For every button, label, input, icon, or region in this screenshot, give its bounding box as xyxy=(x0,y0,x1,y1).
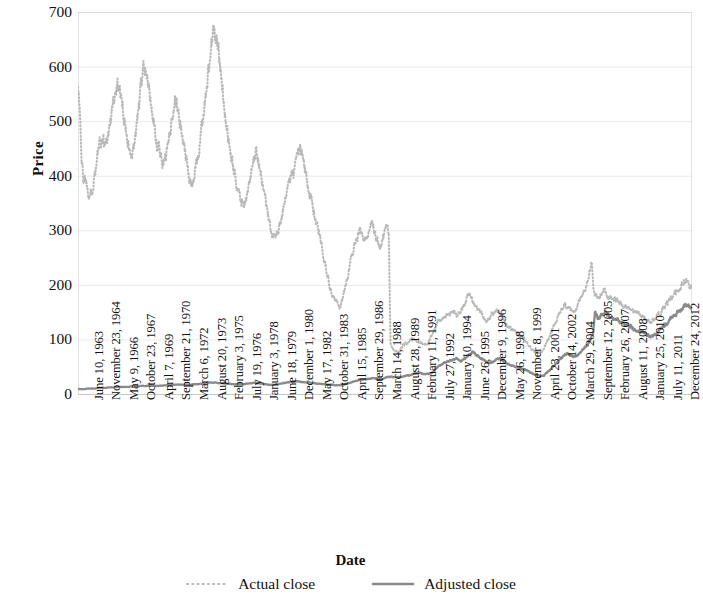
legend-swatch-solid xyxy=(371,579,415,589)
series-line-adjusted-close xyxy=(78,304,692,389)
legend-label-adjusted-close: Adjusted close xyxy=(424,575,516,593)
y-axis-tick-400: 400 xyxy=(12,167,72,185)
legend-swatch-dotted xyxy=(185,579,229,589)
y-axis-tick-100: 100 xyxy=(12,330,72,348)
chart-svg xyxy=(78,12,692,395)
chart-legend: Actual close Adjusted close xyxy=(0,575,701,593)
legend-item-adjusted-close: Adjusted close xyxy=(371,575,516,593)
legend-item-actual-close: Actual close xyxy=(185,575,315,593)
x-axis-title: Date xyxy=(0,552,701,569)
y-axis-tick-300: 300 xyxy=(12,221,72,239)
plot-area xyxy=(78,12,692,394)
y-axis-tick-labels: 0100200300400500600700 xyxy=(12,0,72,600)
y-axis-tick-200: 200 xyxy=(12,276,72,294)
y-axis-tick-600: 600 xyxy=(12,58,72,76)
y-axis-tick-500: 500 xyxy=(12,112,72,130)
y-axis-tick-0: 0 xyxy=(12,385,72,403)
legend-label-actual-close: Actual close xyxy=(238,575,315,593)
y-axis-tick-700: 700 xyxy=(12,3,72,21)
series-line-actual-close xyxy=(78,26,692,354)
